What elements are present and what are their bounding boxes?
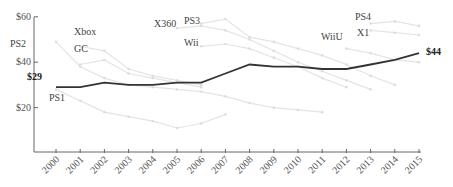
data-point — [394, 20, 397, 23]
label-wii: Wii — [184, 37, 199, 48]
average-line — [56, 53, 419, 87]
data-point — [369, 22, 372, 25]
data-point — [345, 86, 348, 89]
data-point — [200, 22, 203, 25]
y-tick-label: $40 — [16, 56, 31, 67]
data-point — [79, 65, 82, 68]
data-point — [273, 106, 276, 109]
data-point — [200, 90, 203, 93]
data-point — [273, 50, 276, 53]
label-ps4: PS4 — [355, 11, 371, 22]
label-wiiu: WiiU — [321, 31, 344, 42]
data-point — [103, 59, 106, 62]
data-point — [200, 122, 203, 125]
label-ps2: PS2 — [10, 38, 26, 49]
data-point — [418, 25, 421, 28]
data-point — [321, 111, 324, 114]
data-point — [345, 63, 348, 66]
console-labels: PS2 Xbox GC PS1 X360 PS3 Wii WiiU PS4 X1… — [10, 11, 441, 103]
data-point — [200, 25, 203, 28]
x-tick-label: 2006 — [185, 154, 207, 176]
series-line-xbox — [80, 46, 201, 85]
data-point — [79, 63, 82, 66]
label-ps1: PS1 — [49, 92, 65, 103]
data-point — [248, 47, 251, 50]
label-x1: X1 — [357, 27, 369, 38]
data-point — [248, 38, 251, 41]
data-point — [127, 68, 130, 71]
data-point — [273, 40, 276, 43]
x-tick-label: 2000 — [39, 154, 61, 176]
data-point — [176, 88, 179, 91]
y-axis-ticks: $20$40$60 — [16, 11, 38, 113]
x-tick-label: 2015 — [402, 154, 424, 176]
label-ps3: PS3 — [184, 15, 200, 26]
series-line-ps1 — [56, 89, 225, 128]
data-point — [321, 70, 324, 73]
x-tick-label: 2005 — [160, 154, 182, 176]
data-point — [248, 102, 251, 105]
x-tick-label: 2007 — [209, 154, 231, 176]
data-point — [297, 109, 300, 112]
data-point — [224, 113, 227, 116]
data-point — [55, 88, 58, 91]
data-point — [103, 77, 106, 80]
data-point — [297, 47, 300, 50]
data-point — [103, 50, 106, 53]
data-point — [248, 36, 251, 39]
data-point — [418, 34, 421, 37]
x-tick-label: 2012 — [330, 154, 352, 176]
data-point — [273, 56, 276, 59]
data-point — [369, 52, 372, 55]
start-value-label: $29 — [27, 71, 42, 82]
data-point — [297, 61, 300, 64]
x-tick-label: 2010 — [281, 154, 303, 176]
data-point — [394, 31, 397, 34]
data-point — [369, 75, 372, 78]
x-tick-label: 2008 — [233, 154, 255, 176]
data-point — [369, 88, 372, 91]
x-tick-label: 2014 — [378, 154, 400, 176]
label-xbox: Xbox — [74, 26, 96, 37]
data-point — [200, 84, 203, 87]
data-point — [224, 18, 227, 21]
data-point — [79, 99, 82, 102]
x-tick-label: 2004 — [136, 154, 158, 176]
data-point — [152, 75, 155, 78]
data-point — [418, 61, 421, 64]
data-point — [224, 43, 227, 46]
data-point — [55, 40, 58, 43]
x-tick-label: 2011 — [306, 154, 328, 176]
data-point — [176, 79, 179, 82]
data-point — [152, 120, 155, 123]
data-point — [224, 29, 227, 32]
line-chart: $20$40$60 200020012002200320042005200620… — [0, 0, 453, 187]
y-tick-label: $20 — [16, 102, 31, 113]
x-axis-ticks: 2000200120022003200420052006200720082009… — [39, 149, 424, 176]
data-point — [321, 77, 324, 80]
label-x360: X360 — [154, 18, 176, 29]
x-tick-label: 2001 — [64, 154, 86, 176]
series-line-ps2 — [56, 42, 322, 112]
data-point — [103, 111, 106, 114]
data-point — [127, 115, 130, 118]
data-point — [127, 72, 130, 75]
data-point — [152, 86, 155, 89]
data-point — [176, 127, 179, 130]
y-tick-label: $60 — [16, 11, 31, 22]
x-tick-label: 2003 — [112, 154, 134, 176]
data-point — [369, 29, 372, 32]
data-point — [394, 84, 397, 87]
data-point — [200, 86, 203, 89]
average-price-line — [56, 53, 419, 87]
end-value-label: $44 — [426, 46, 441, 57]
x-tick-label: 2013 — [354, 154, 376, 176]
x-tick-label: 2002 — [88, 154, 110, 176]
data-point — [345, 47, 348, 50]
data-point — [321, 54, 324, 57]
label-gc: GC — [74, 43, 88, 54]
data-point — [345, 79, 348, 82]
data-point — [224, 95, 227, 98]
x-tick-label: 2009 — [257, 154, 279, 176]
data-point — [152, 77, 155, 80]
